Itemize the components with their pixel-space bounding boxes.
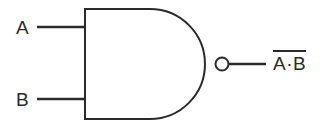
input-b-label: B [16,90,29,109]
input-a-label: A [16,18,29,37]
output-expression-overbar: A·B [273,50,306,74]
output-label: A·B [273,50,306,74]
logic-diagram-canvas: A B A·B [0,0,329,129]
gate-body-shape [85,9,205,119]
inversion-bubble-icon [216,58,229,71]
